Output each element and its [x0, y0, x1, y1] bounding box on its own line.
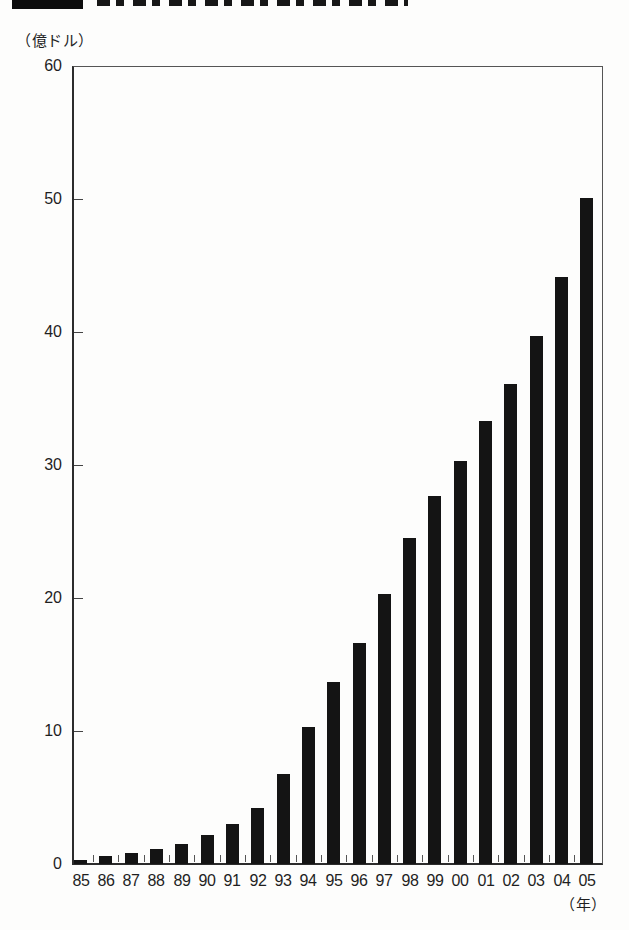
- y-tick-30: [74, 465, 83, 466]
- x-tick-86-87: [118, 855, 119, 862]
- x-tick-label-94: 94: [295, 872, 321, 890]
- y-tick-label-50: 50: [0, 189, 62, 209]
- figure-number-badge: [12, 0, 83, 9]
- x-tick-00-01: [473, 855, 474, 862]
- y-tick-40: [74, 332, 83, 333]
- y-axis-unit-label: （億ドル）: [16, 32, 94, 49]
- x-tick-90-91: [220, 855, 221, 862]
- bar-01: [479, 421, 492, 864]
- x-tick-label-02: 02: [498, 872, 524, 890]
- x-tick-97-98: [397, 855, 398, 862]
- bar-93: [277, 774, 290, 864]
- bar-98: [403, 538, 416, 864]
- x-tick-label-87: 87: [118, 872, 144, 890]
- bar-85: [74, 860, 87, 864]
- x-tick-label-89: 89: [169, 872, 195, 890]
- y-tick-label-30: 30: [0, 455, 62, 475]
- bar-89: [175, 844, 188, 864]
- x-tick-92-93: [270, 855, 271, 862]
- bar-99: [428, 496, 441, 864]
- x-tick-label-86: 86: [93, 872, 119, 890]
- y-tick-10: [74, 731, 83, 732]
- x-tick-label-93: 93: [270, 872, 296, 890]
- x-tick-87-88: [144, 855, 145, 862]
- x-tick-label-85: 85: [68, 872, 94, 890]
- bar-95: [327, 682, 340, 864]
- bar-94: [302, 727, 315, 864]
- x-axis-unit-label: （年）: [560, 896, 606, 913]
- bar-86: [99, 856, 112, 864]
- y-tick-label-0: 0: [0, 854, 62, 874]
- x-tick-label-98: 98: [397, 872, 423, 890]
- y-tick-20: [74, 598, 83, 599]
- y-tick-label-10: 10: [0, 721, 62, 741]
- clipped-figure-title-text: [97, 0, 408, 6]
- y-tick-50: [74, 199, 83, 200]
- x-tick-label-92: 92: [245, 872, 271, 890]
- x-tick-94-95: [321, 855, 322, 862]
- bar-91: [226, 824, 239, 864]
- x-tick-label-03: 03: [523, 872, 549, 890]
- x-tick-95-96: [346, 855, 347, 862]
- bar-02: [504, 384, 517, 864]
- x-tick-label-01: 01: [473, 872, 499, 890]
- x-tick-88-89: [169, 855, 170, 862]
- bar-04: [555, 277, 568, 864]
- x-tick-label-97: 97: [371, 872, 397, 890]
- x-tick-93-94: [296, 855, 297, 862]
- x-tick-02-03: [524, 855, 525, 862]
- y-tick-label-40: 40: [0, 322, 62, 342]
- x-tick-99-00: [448, 855, 449, 862]
- bar-87: [125, 853, 138, 864]
- bar-90: [201, 835, 214, 864]
- x-tick-04-05: [574, 855, 575, 862]
- bar-05: [580, 198, 593, 864]
- x-tick-label-96: 96: [346, 872, 372, 890]
- x-tick-91-92: [245, 855, 246, 862]
- x-tick-label-95: 95: [321, 872, 347, 890]
- x-tick-98-99: [422, 855, 423, 862]
- bar-03: [530, 336, 543, 864]
- x-tick-85-86: [93, 855, 94, 862]
- x-tick-label-88: 88: [143, 872, 169, 890]
- x-tick-96-97: [372, 855, 373, 862]
- x-tick-label-04: 04: [549, 872, 575, 890]
- bar-92: [251, 808, 264, 864]
- bar-96: [353, 643, 366, 864]
- bar-88: [150, 849, 163, 864]
- x-tick-label-00: 00: [447, 872, 473, 890]
- x-tick-01-02: [498, 855, 499, 862]
- y-tick-label-60: 60: [0, 56, 62, 76]
- x-tick-label-91: 91: [219, 872, 245, 890]
- x-tick-89-90: [194, 855, 195, 862]
- x-tick-label-99: 99: [422, 872, 448, 890]
- x-tick-label-90: 90: [194, 872, 220, 890]
- bar-97: [378, 594, 391, 864]
- bar-00: [454, 461, 467, 864]
- x-tick-03-04: [549, 855, 550, 862]
- scanned-bar-chart-figure: （億ドル） 0102030405060858687888990919293949…: [0, 0, 629, 930]
- x-tick-label-05: 05: [574, 872, 600, 890]
- y-tick-label-20: 20: [0, 588, 62, 608]
